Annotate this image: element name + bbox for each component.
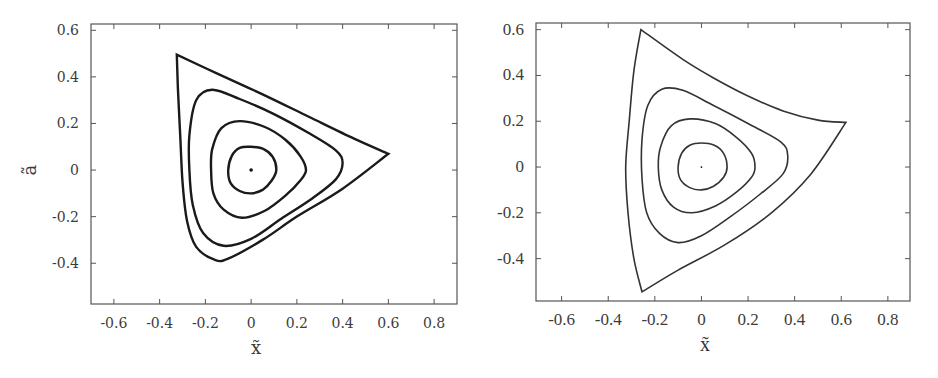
y-tick-label: 0.4 xyxy=(503,65,525,84)
x-tick-label: 0.4 xyxy=(784,310,806,329)
orbit-curve-2 xyxy=(658,119,755,213)
x-tick-label: 0.2 xyxy=(737,310,758,329)
x-tick-label: -0.2 xyxy=(641,310,668,329)
x-tick-label: 0.6 xyxy=(831,310,852,329)
orbit-curve-1 xyxy=(678,143,727,190)
x-tick-label: -0.6 xyxy=(548,310,575,329)
y-tick-label: 0.6 xyxy=(503,20,524,39)
y-tick-label: 0.2 xyxy=(503,111,524,130)
y-tick-label: 0 xyxy=(516,157,525,176)
x-tick-label: -0.4 xyxy=(595,310,622,329)
fixed-point-marker xyxy=(701,166,703,168)
right-phase-portrait: -0.6-0.4-0.200.20.40.60.8-0.4-0.200.20.4… xyxy=(0,0,938,378)
x-tick-label: 0 xyxy=(697,310,706,329)
figure: -0.6-0.4-0.200.20.40.60.8-0.4-0.200.20.4… xyxy=(0,0,938,378)
orbit-curve-3 xyxy=(641,88,787,243)
x-axis-label: x̃ xyxy=(700,333,710,355)
x-tick-label: 0.8 xyxy=(877,310,898,329)
y-tick-label: -0.4 xyxy=(497,249,524,268)
y-tick-label: -0.2 xyxy=(497,203,524,222)
plot-frame xyxy=(536,23,910,301)
